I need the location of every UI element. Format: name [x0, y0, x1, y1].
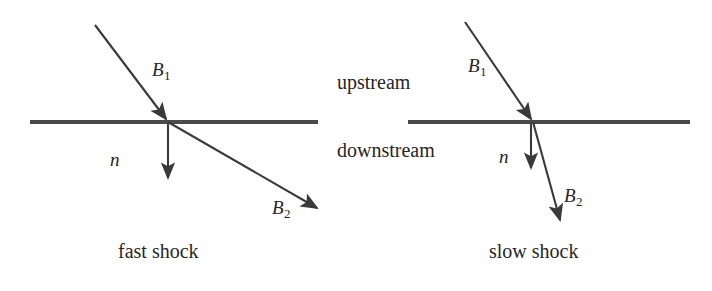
- b2-vector-fast: [168, 122, 317, 208]
- label-b2-fast-subscript: 2: [284, 206, 291, 221]
- label-b2-slow: B2: [564, 186, 583, 208]
- label-b2-fast-base: B: [272, 197, 284, 218]
- b2-vector-slow: [533, 122, 560, 220]
- caption-fast-shock: fast shock: [118, 241, 199, 261]
- label-upstream: upstream: [337, 72, 410, 92]
- label-b1-fast-base: B: [152, 59, 164, 80]
- label-b2-slow-base: B: [564, 185, 576, 206]
- label-normal-fast: n: [110, 150, 120, 169]
- caption-slow-shock: slow shock: [489, 241, 578, 261]
- label-b2-fast: B2: [272, 198, 291, 220]
- label-normal-slow: n: [499, 147, 509, 166]
- panel-fast-shock: [30, 25, 318, 208]
- label-b1-slow-base: B: [468, 55, 480, 76]
- label-b1-fast-subscript: 1: [164, 68, 171, 83]
- figure-canvas: B1 n B2 B1 n B2 upstream downstream fast…: [0, 0, 712, 291]
- label-b2-slow-subscript: 2: [576, 194, 583, 209]
- label-b1-slow: B1: [468, 56, 487, 78]
- label-b1-slow-subscript: 1: [480, 64, 487, 79]
- panel-slow-shock: [408, 22, 690, 220]
- label-b1-fast: B1: [152, 60, 171, 82]
- label-downstream: downstream: [337, 140, 435, 160]
